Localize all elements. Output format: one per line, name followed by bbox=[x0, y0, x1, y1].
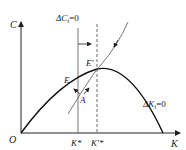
delta-k-zero-curve bbox=[21, 68, 163, 133]
arrow-up-left-a bbox=[74, 89, 80, 94]
x-axis-label: K bbox=[170, 138, 179, 149]
k-prime-star-label: K'* bbox=[90, 138, 104, 148]
diagram-svg: C O K ΔCi=0 ΔKi=0 E E' A K* K'* bbox=[0, 0, 186, 150]
arrow-up-right-a bbox=[84, 88, 89, 94]
point-a-label: A bbox=[79, 95, 86, 105]
saddle-path bbox=[68, 22, 128, 114]
delta-c-label: ΔCi=0 bbox=[55, 13, 79, 25]
phase-diagram: C O K ΔCi=0 ΔKi=0 E E' A K* K'* bbox=[0, 0, 186, 150]
y-axis-label: C bbox=[10, 19, 17, 30]
point-e-label: E bbox=[63, 75, 70, 85]
saddle-arrow bbox=[114, 40, 118, 47]
k-star-label: K* bbox=[70, 138, 82, 148]
origin-label: O bbox=[9, 134, 16, 145]
point-e-prime-label: E' bbox=[85, 58, 94, 68]
delta-k-label: ΔKi=0 bbox=[142, 99, 166, 111]
